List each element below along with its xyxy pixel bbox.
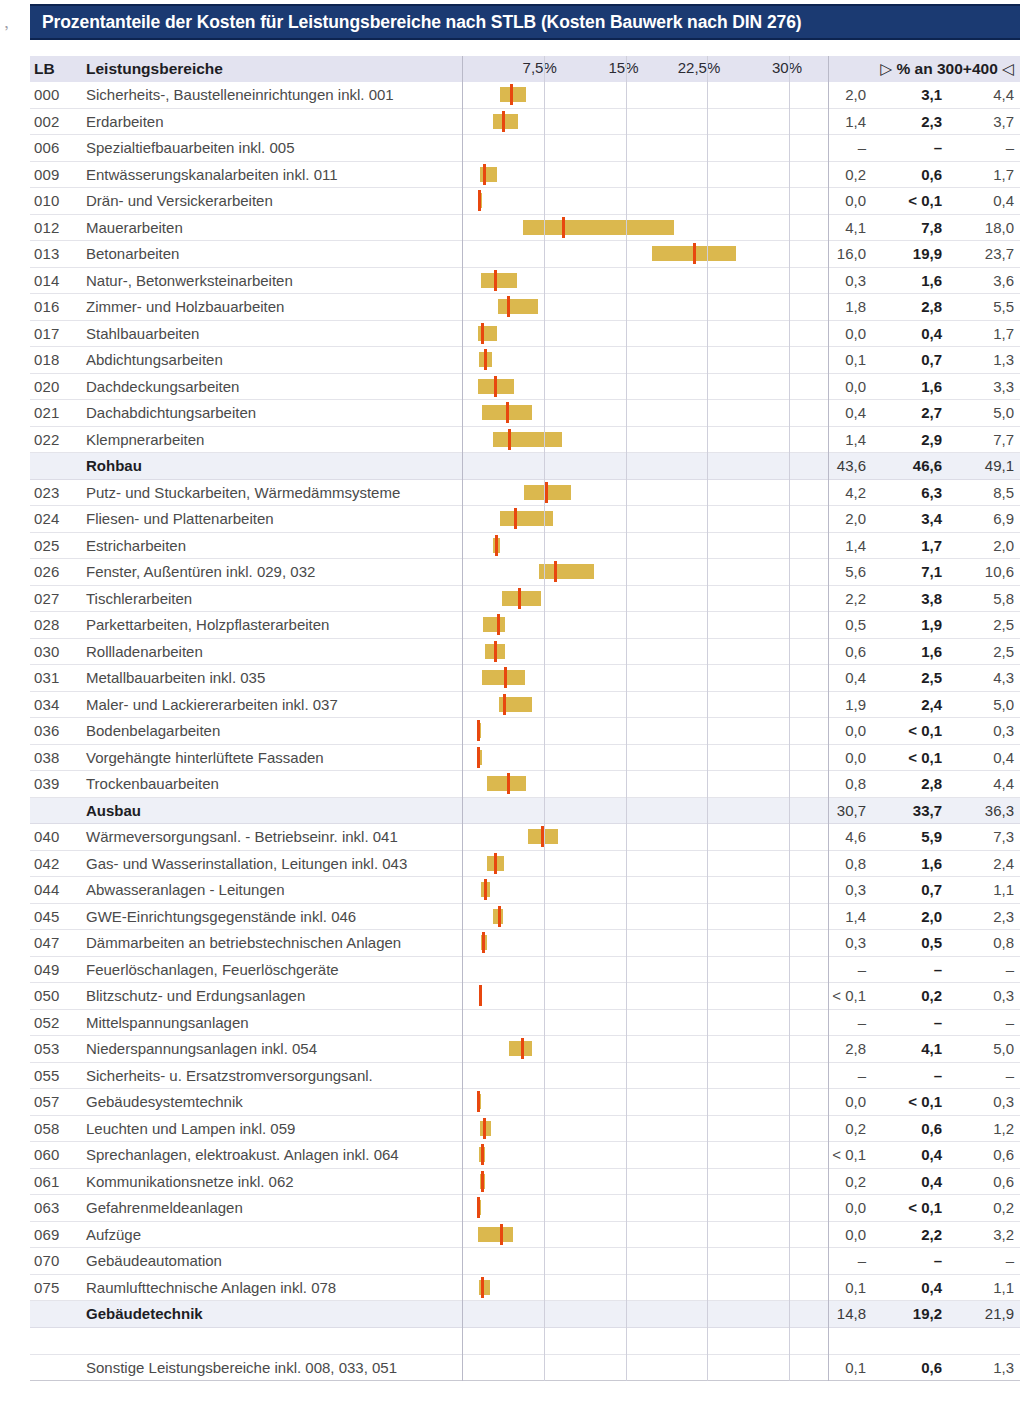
table-row[interactable]: 061Kommunikationsnetze inkl. 0620,20,40,… <box>30 1168 1020 1195</box>
table-row[interactable]: 058Leuchten und Lampen inkl. 0590,20,61,… <box>30 1115 1020 1142</box>
table-row[interactable]: 013Betonarbeiten16,019,923,7 <box>30 241 1020 268</box>
table-row[interactable]: 070Gebäudeautomation––– <box>30 1248 1020 1275</box>
range-bar <box>502 591 541 606</box>
table-row[interactable]: 053Niederspannungsanlagen inkl. 0542,84,… <box>30 1036 1020 1063</box>
cell-percent-median: 33,7 <box>872 797 948 824</box>
cell-percent-median: 7,8 <box>872 214 948 241</box>
range-bar-track <box>468 1169 796 1195</box>
median-marker <box>494 641 497 662</box>
cell-range-bar <box>468 1248 796 1275</box>
table-row[interactable]: 021Dachabdichtungsarbeiten0,42,75,0 <box>30 400 1020 427</box>
cell-percent-median: 2,0 <box>872 903 948 930</box>
cell-leistungsbereich: Klempnerarbeiten <box>76 426 468 453</box>
table-row[interactable]: 030Rollladenarbeiten0,61,62,5 <box>30 638 1020 665</box>
cell-percent-median: < 0,1 <box>872 1089 948 1116</box>
table-row[interactable]: 010Drän- und Versickerarbeiten0,0< 0,10,… <box>30 188 1020 215</box>
table-row[interactable]: 025Estricharbeiten1,41,72,0 <box>30 532 1020 559</box>
table-row[interactable] <box>30 1327 1020 1354</box>
cell-percent-median: 2,2 <box>872 1221 948 1248</box>
range-bar-track <box>468 374 796 400</box>
table-row[interactable]: 028Parkettarbeiten, Holzpflasterarbeiten… <box>30 612 1020 639</box>
cell-lb: 000 <box>30 82 76 108</box>
cell-percent-median: 0,5 <box>872 930 948 957</box>
table-row[interactable]: 034Maler- und Lackiererarbeiten inkl. 03… <box>30 691 1020 718</box>
cell-range-bar <box>468 1301 796 1328</box>
range-bar-track <box>468 135 796 161</box>
table-row[interactable]: 016Zimmer- und Holzbauarbeiten1,82,85,5 <box>30 294 1020 321</box>
range-bar-track <box>468 957 796 983</box>
table-row[interactable]: 017Stahlbauarbeiten0,00,41,7 <box>30 320 1020 347</box>
table-row[interactable]: 040Wärmeversorgungsanl. - Betriebseinr. … <box>30 824 1020 851</box>
cell-percent-min: 0,3 <box>796 267 872 294</box>
table-row[interactable]: 044Abwasseranlagen - Leitungen0,30,71,1 <box>30 877 1020 904</box>
median-marker <box>484 349 487 370</box>
table-row[interactable]: 069Aufzüge0,02,23,2 <box>30 1221 1020 1248</box>
cell-percent-min: 2,2 <box>796 585 872 612</box>
cell-range-bar <box>468 108 796 135</box>
chart-title-bar: Prozentanteile der Kosten für Leistungsb… <box>30 4 1020 40</box>
table-row[interactable]: Sonstige Leistungsbereiche inkl. 008, 03… <box>30 1354 1020 1381</box>
table-row[interactable]: 036Bodenbelagarbeiten0,0< 0,10,3 <box>30 718 1020 745</box>
cell-percent-median: – <box>872 1248 948 1275</box>
table-row[interactable]: 022Klempnerarbeiten1,42,97,7 <box>30 426 1020 453</box>
cell-leistungsbereich: Niederspannungsanlagen inkl. 054 <box>76 1036 468 1063</box>
cell-lb: 050 <box>30 983 76 1010</box>
table-row-group-total[interactable]: Ausbau30,733,736,3 <box>30 797 1020 824</box>
cell-range-bar <box>468 506 796 533</box>
range-bar-track <box>468 1195 796 1221</box>
cell-percent-min: 1,8 <box>796 294 872 321</box>
table-body: 000Sicherheits-, Baustelleneinrichtungen… <box>30 82 1020 1381</box>
table-row[interactable]: 000Sicherheits-, Baustelleneinrichtungen… <box>30 82 1020 108</box>
cell-percent-median: – <box>872 135 948 162</box>
table-row[interactable]: 057Gebäudesystemtechnik0,0< 0,10,3 <box>30 1089 1020 1116</box>
table-row-group-total[interactable]: Gebäudetechnik14,819,221,9 <box>30 1301 1020 1328</box>
cell-percent-max: 1,1 <box>948 877 1020 904</box>
cell-leistungsbereich: Spezialtiefbauarbeiten inkl. 005 <box>76 135 468 162</box>
table-row-group-total[interactable]: Rohbau43,646,649,1 <box>30 453 1020 480</box>
table-row[interactable]: 020Dachdeckungsarbeiten0,01,63,3 <box>30 373 1020 400</box>
table-row[interactable]: 009Entwässerungskanalarbeiten inkl. 0110… <box>30 161 1020 188</box>
cell-leistungsbereich: Sonstige Leistungsbereiche inkl. 008, 03… <box>76 1354 468 1381</box>
cell-percent-median: 3,4 <box>872 506 948 533</box>
cell-percent-median: 0,4 <box>872 1168 948 1195</box>
table-row[interactable]: 031Metallbauarbeiten inkl. 0350,42,54,3 <box>30 665 1020 692</box>
table-row[interactable]: 027Tischlerarbeiten2,23,85,8 <box>30 585 1020 612</box>
cell-lb: 028 <box>30 612 76 639</box>
table-row[interactable]: 055Sicherheits- u. Ersatzstromversorgung… <box>30 1062 1020 1089</box>
range-bar-track <box>468 1142 796 1168</box>
cell-percent-max: 5,0 <box>948 1036 1020 1063</box>
table-row[interactable]: 052Mittelspannungsanlagen––– <box>30 1009 1020 1036</box>
table-row[interactable]: 039Trockenbauarbeiten0,82,84,4 <box>30 771 1020 798</box>
median-marker <box>498 906 501 927</box>
table-row[interactable]: 012Mauerarbeiten4,17,818,0 <box>30 214 1020 241</box>
cell-percent-max: 0,4 <box>948 744 1020 771</box>
cell-percent-median: 5,9 <box>872 824 948 851</box>
table-row[interactable]: 023Putz- und Stuckarbeiten, Wärmedämmsys… <box>30 479 1020 506</box>
cell-percent-median: 1,6 <box>872 267 948 294</box>
table-row[interactable]: 014Natur-, Betonwerksteinarbeiten0,31,63… <box>30 267 1020 294</box>
table-row[interactable]: 047Dämmarbeiten an betriebstechnischen A… <box>30 930 1020 957</box>
cell-leistungsbereich: Leuchten und Lampen inkl. 059 <box>76 1115 468 1142</box>
table-row[interactable]: 045GWE-Einrichtungsgegenstände inkl. 046… <box>30 903 1020 930</box>
table-row[interactable]: 042Gas- und Wasserinstallation, Leitunge… <box>30 850 1020 877</box>
table-row[interactable]: 038Vorgehängte hinterlüftete Fassaden0,0… <box>30 744 1020 771</box>
table-row[interactable]: 063Gefahrenmeldeanlagen0,0< 0,10,2 <box>30 1195 1020 1222</box>
cell-range-bar <box>468 1009 796 1036</box>
range-bar-track <box>468 533 796 559</box>
range-bar-track <box>468 268 796 294</box>
table-row[interactable]: 026Fenster, Außentüren inkl. 029, 0325,6… <box>30 559 1020 586</box>
table-row[interactable]: 002Erdarbeiten1,42,33,7 <box>30 108 1020 135</box>
cell-percent-max: 3,3 <box>948 373 1020 400</box>
median-marker <box>494 376 497 397</box>
table-row[interactable]: 024Fliesen- und Plattenarbeiten2,03,46,9 <box>30 506 1020 533</box>
table-row[interactable]: 075Raumlufttechnische Anlagen inkl. 0780… <box>30 1274 1020 1301</box>
cell-leistungsbereich: Ausbau <box>76 797 468 824</box>
cell-leistungsbereich: Kommunikationsnetze inkl. 062 <box>76 1168 468 1195</box>
cell-range-bar <box>468 612 796 639</box>
table-row[interactable]: 049Feuerlöschanlagen, Feuerlöschgeräte––… <box>30 956 1020 983</box>
table-row[interactable]: 060Sprechanlagen, elektroakust. Anlagen … <box>30 1142 1020 1169</box>
table-row[interactable]: 006Spezialtiefbauarbeiten inkl. 005––– <box>30 135 1020 162</box>
table-row[interactable]: 050Blitzschutz- und Erdungsanlagen< 0,10… <box>30 983 1020 1010</box>
cell-leistungsbereich: Fenster, Außentüren inkl. 029, 032 <box>76 559 468 586</box>
table-row[interactable]: 018Abdichtungsarbeiten0,10,71,3 <box>30 347 1020 374</box>
